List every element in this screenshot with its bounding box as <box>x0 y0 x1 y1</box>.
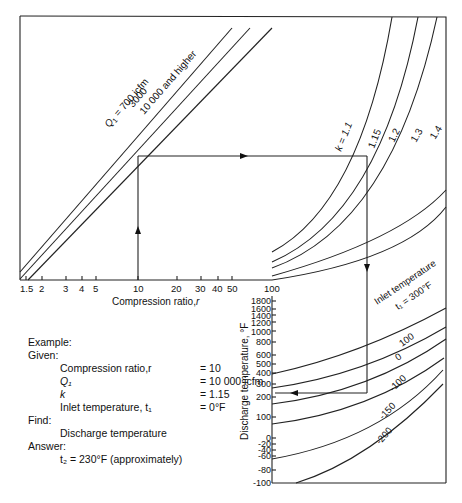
answer-value: t₂ = 230°F (approximately) <box>28 453 263 466</box>
x-tick-labels: 1.5 2 3 4 5 10 20 30 40 50 100 <box>20 283 280 294</box>
given-row: Compression ratio,r= 10 <box>60 362 263 375</box>
svg-text:100: 100 <box>397 330 416 348</box>
svg-text:1.4: 1.4 <box>427 123 444 141</box>
svg-text:40: 40 <box>212 283 223 294</box>
given-heading: Given: <box>28 349 263 362</box>
svg-text:4: 4 <box>79 283 84 294</box>
svg-text:1.3: 1.3 <box>408 126 425 144</box>
svg-text:k = 1.1: k = 1.1 <box>333 121 355 153</box>
flow-line-700 <box>20 28 232 272</box>
svg-text:-150: -150 <box>377 400 398 421</box>
find-heading: Find: <box>28 414 263 427</box>
find-value: Discharge temperature <box>28 427 263 440</box>
answer-heading: Answer: <box>28 440 263 453</box>
flow-line-3000 <box>20 28 250 279</box>
svg-text:-100: -100 <box>253 478 271 488</box>
inlet-curve-100 <box>272 327 446 388</box>
svg-text:30: 30 <box>195 283 206 294</box>
svg-text:1.2: 1.2 <box>386 126 402 144</box>
svg-text:10: 10 <box>133 283 144 294</box>
upper-x-axis-label: Compression ratio,r <box>112 296 200 307</box>
example-heading: Example: <box>28 336 263 349</box>
svg-text:100: 100 <box>264 283 280 294</box>
svg-text:-200: -200 <box>373 425 394 446</box>
y-axis-ticks <box>272 301 276 470</box>
k-curve-1.2 <box>272 17 437 268</box>
svg-text:5: 5 <box>93 283 98 294</box>
svg-text:0: 0 <box>393 351 404 363</box>
svg-text:2: 2 <box>39 283 44 294</box>
given-row: k= 1.15 <box>60 388 263 401</box>
given-row: Inlet temperature, t₁= 0°F <box>60 401 263 414</box>
svg-text:3: 3 <box>63 283 68 294</box>
svg-text:1.15: 1.15 <box>366 127 384 150</box>
given-list: Compression ratio,r= 10 Q₁= 10 000 icfm … <box>28 362 263 414</box>
svg-text:20: 20 <box>171 283 182 294</box>
k-labels: k = 1.1 1.15 1.2 1.3 1.4 <box>333 121 445 153</box>
x-axis-ticks <box>26 276 232 280</box>
given-row: Q₁= 10 000 icfm <box>60 375 263 388</box>
svg-text:1.5: 1.5 <box>20 283 33 294</box>
flow-line-10000 <box>28 28 272 280</box>
svg-text:50: 50 <box>227 283 238 294</box>
svg-text:-80: -80 <box>258 465 271 475</box>
example-block: Example: Given: Compression ratio,r= 10 … <box>28 336 263 466</box>
